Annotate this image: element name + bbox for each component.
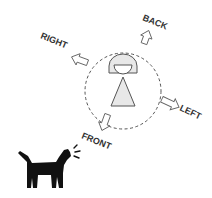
- bark-lines-icon: [74, 145, 80, 158]
- front-label: FRONT: [80, 131, 113, 152]
- left-label: LEFT: [178, 103, 203, 122]
- orientation-diagram: BACK RIGHT LEFT FRONT: [0, 0, 212, 198]
- front-arrow-icon: [96, 112, 113, 132]
- person-icon: [109, 54, 137, 106]
- dog-icon: [18, 149, 71, 188]
- back-label: BACK: [141, 13, 169, 32]
- right-label: RIGHT: [39, 31, 69, 51]
- right-arrow-icon: [69, 51, 89, 68]
- back-arrow-icon: [138, 28, 154, 45]
